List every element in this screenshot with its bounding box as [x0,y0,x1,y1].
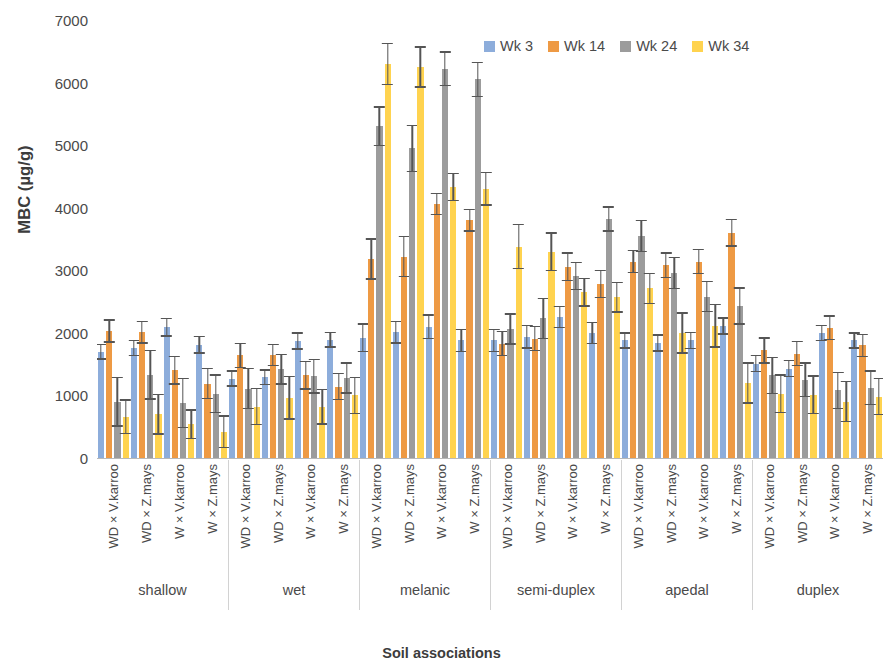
bar-wk-24[interactable] [769,20,775,458]
bar-wk-3[interactable] [229,20,235,458]
bar-wk-3[interactable] [851,20,857,458]
bar-wk-24[interactable] [376,20,382,458]
bar-wk-3[interactable] [426,20,432,458]
bar-wk-14[interactable] [139,20,145,458]
bar-wk-14[interactable] [172,20,178,458]
bar-wk-3[interactable] [393,20,399,458]
bar-wk-14[interactable] [401,20,407,458]
bar-wk-24[interactable] [638,20,644,458]
bar-wk-34[interactable] [352,20,358,458]
bar-wk-24[interactable] [213,20,219,458]
bar-wk-34[interactable] [155,20,161,458]
bar-wk-34[interactable] [581,20,587,458]
bar-wk-14[interactable] [204,20,210,458]
bar-wk-3[interactable] [295,20,301,458]
bar-wk-34[interactable] [123,20,129,458]
bar-wk-14[interactable] [368,20,374,458]
bar-wk-14[interactable] [106,20,112,458]
bar-wk-34[interactable] [548,20,554,458]
bar-wk-24[interactable] [442,20,448,458]
bar-wk-24[interactable] [540,20,546,458]
legend-item-wk-3[interactable]: Wk 3 [484,38,533,54]
bar-wk-34[interactable] [712,20,718,458]
bar-wk-34[interactable] [778,20,784,458]
bar-wk-34[interactable] [647,20,653,458]
bar-wk-3[interactable] [819,20,825,458]
bar-wk-34[interactable] [810,20,816,458]
bar-wk-14[interactable] [565,20,571,458]
bar-wk-24[interactable] [180,20,186,458]
bar-wk-3[interactable] [327,20,333,458]
bar-wk-24[interactable] [147,20,153,458]
bar-wk-14[interactable] [466,20,472,458]
bar-wk-3[interactable] [786,20,792,458]
bar-wk-3[interactable] [131,20,137,458]
bar-wk-3[interactable] [164,20,170,458]
legend-item-wk-24[interactable]: Wk 24 [620,38,677,54]
bar-wk-24[interactable] [245,20,251,458]
x-tick: WD × Z.mays [262,460,295,578]
bar-wk-34[interactable] [254,20,260,458]
bar-wk-24[interactable] [671,20,677,458]
bar-wk-3[interactable] [622,20,628,458]
x-tick-label: W × Z.mays [335,464,350,534]
bar-wk-34[interactable] [516,20,522,458]
bar-wk-34[interactable] [319,20,325,458]
bar-wk-34[interactable] [286,20,292,458]
bar-wk-3[interactable] [655,20,661,458]
bar-wk-34[interactable] [876,20,882,458]
bar-wk-34[interactable] [745,20,751,458]
y-tick-label: 4000 [32,199,88,216]
bar-wk-3[interactable] [557,20,563,458]
bar-wk-34[interactable] [221,20,227,458]
bar-fill [859,345,865,458]
bar-wk-24[interactable] [311,20,317,458]
bar-wk-14[interactable] [630,20,636,458]
bar-wk-14[interactable] [827,20,833,458]
bar-wk-14[interactable] [532,20,538,458]
bar-wk-34[interactable] [188,20,194,458]
bar-wk-3[interactable] [688,20,694,458]
legend-item-wk-34[interactable]: Wk 34 [692,38,749,54]
bar-wk-14[interactable] [663,20,669,458]
bar-wk-14[interactable] [859,20,865,458]
bar-wk-24[interactable] [606,20,612,458]
bar-wk-24[interactable] [737,20,743,458]
bar-wk-14[interactable] [728,20,734,458]
bar-wk-24[interactable] [278,20,284,458]
bar-wk-24[interactable] [835,20,841,458]
bar-wk-14[interactable] [237,20,243,458]
bar-wk-24[interactable] [344,20,350,458]
bar-wk-24[interactable] [868,20,874,458]
bar-wk-24[interactable] [802,20,808,458]
bar-wk-34[interactable] [679,20,685,458]
bar-wk-34[interactable] [614,20,620,458]
bar-wk-24[interactable] [507,20,513,458]
bar-wk-14[interactable] [499,20,505,458]
bar-wk-34[interactable] [483,20,489,458]
bar-wk-3[interactable] [98,20,104,458]
bar-wk-34[interactable] [417,20,423,458]
bar-wk-3[interactable] [720,20,726,458]
bar-wk-14[interactable] [597,20,603,458]
bar-wk-34[interactable] [450,20,456,458]
bar-wk-14[interactable] [696,20,702,458]
bar-wk-34[interactable] [843,20,849,458]
bar-wk-24[interactable] [114,20,120,458]
error-cap-bottom [530,350,541,351]
bar-wk-14[interactable] [794,20,800,458]
bar-wk-3[interactable] [458,20,464,458]
legend-item-wk-14[interactable]: Wk 14 [548,38,605,54]
bar-wk-24[interactable] [573,20,579,458]
bar-wk-3[interactable] [753,20,759,458]
bar-wk-24[interactable] [475,20,481,458]
bar-wk-3[interactable] [524,20,530,458]
bar-wk-3[interactable] [196,20,202,458]
bar-wk-3[interactable] [491,20,497,458]
bar-wk-24[interactable] [704,20,710,458]
bar-wk-14[interactable] [270,20,276,458]
bar-wk-3[interactable] [262,20,268,458]
error-cap-bottom [873,414,883,415]
bar-wk-3[interactable] [589,20,595,458]
bar-wk-34[interactable] [385,20,391,458]
